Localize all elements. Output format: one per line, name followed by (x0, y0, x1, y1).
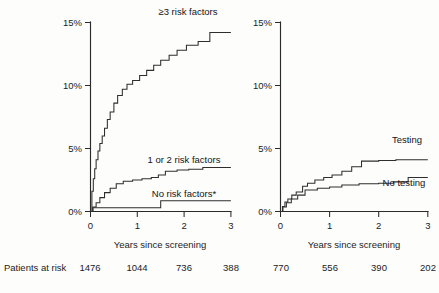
curve-high-risk (91, 33, 231, 212)
curve-label-high-risk: ≥3 risk factors (158, 6, 217, 17)
risk-count-left-0: 1476 (79, 262, 100, 273)
y-tick-label-15-left: 15% (63, 17, 83, 28)
y-tick-label-0-right: 0% (258, 206, 272, 217)
plot-left-svg: 15% 10% 5% 0% 0 1 2 3 Years since screen… (0, 0, 240, 258)
risk-count-left-3: 388 (223, 262, 239, 273)
x-tick-label-1-right: 1 (327, 220, 332, 231)
curve-label-no-testing: No testing (383, 177, 426, 188)
x-axis-title-left: Years since screening (114, 239, 207, 250)
curve-no-risk (91, 201, 231, 212)
x-tick-label-3-left: 3 (228, 220, 233, 231)
chart-panel-left: 15% 10% 5% 0% 0 1 2 3 Years since screen… (0, 0, 240, 258)
patients-at-risk-label: Patients at risk (4, 262, 66, 273)
risk-count-right-3: 202 (420, 262, 436, 273)
x-tick-label-3-right: 3 (425, 220, 430, 231)
y-tick-label-15-right: 15% (253, 17, 273, 28)
curve-label-mid-risk: 1 or 2 risk factors (148, 154, 221, 165)
risk-count-left-1: 1044 (126, 262, 147, 273)
curve-label-testing: Testing (392, 134, 422, 145)
y-tick-label-10-right: 10% (253, 80, 273, 91)
x-axis-title-right: Years since screening (308, 239, 401, 250)
risk-count-right-2: 390 (371, 262, 387, 273)
risk-count-left-2: 736 (176, 262, 192, 273)
figure-root: 15% 10% 5% 0% 0 1 2 3 Years since screen… (0, 0, 439, 293)
risk-count-right-1: 556 (322, 262, 338, 273)
x-tick-label-2-left: 2 (181, 220, 186, 231)
chart-panel-right: 15% 10% 5% 0% 0 1 2 3 Years since screen… (240, 0, 439, 258)
y-tick-label-0-left: 0% (68, 206, 82, 217)
plot-right-svg: 15% 10% 5% 0% 0 1 2 3 Years since screen… (240, 0, 439, 258)
x-tick-label-2-right: 2 (376, 220, 381, 231)
x-tick-label-0-left: 0 (88, 220, 93, 231)
patients-at-risk-row: Patients at risk 1476 1044 736 388 770 5… (0, 262, 439, 282)
y-tick-label-5-right: 5% (258, 143, 272, 154)
x-tick-label-1-left: 1 (135, 220, 140, 231)
y-tick-label-5-left: 5% (68, 143, 82, 154)
risk-count-right-0: 770 (273, 262, 289, 273)
y-tick-label-10-left: 10% (63, 80, 83, 91)
x-tick-label-0-right: 0 (278, 220, 283, 231)
curve-label-no-risk: No risk factors* (152, 188, 217, 199)
